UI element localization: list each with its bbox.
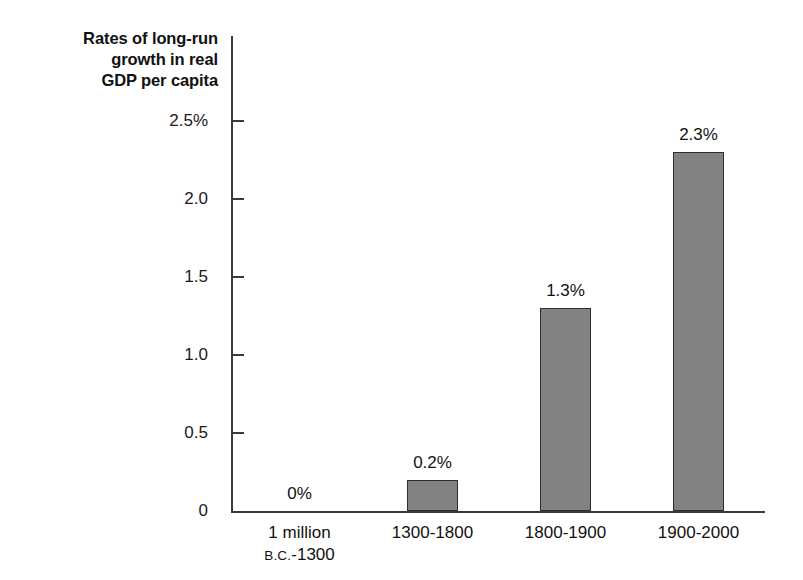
bar-chart-figure: Rates of long-run growth in real GDP per… [0, 0, 803, 580]
bar-value-label: 0% [240, 485, 360, 502]
bar [673, 152, 724, 511]
bar-value-label: 2.3% [639, 126, 759, 143]
x-axis-line [231, 511, 765, 513]
bar-value-label: 0.2% [373, 454, 493, 471]
chart-title: Rates of long-run growth in real GDP per… [20, 28, 218, 91]
y-axis-line [231, 36, 233, 513]
chart-title-line-2: growth in real [20, 49, 218, 70]
y-axis-tick [233, 120, 244, 122]
bar-value-label: 1.3% [506, 282, 626, 299]
y-axis-tick [233, 276, 244, 278]
y-axis-tick [233, 198, 244, 200]
chart-title-line-3: GDP per capita [20, 70, 218, 91]
y-axis-tick [233, 354, 244, 356]
y-axis-tick [233, 432, 244, 434]
x-axis-category-label: 1 millionB.C.-1300 [225, 522, 375, 567]
x-axis-category-label: 1800-1900 [491, 522, 641, 544]
chart-title-line-1: Rates of long-run [20, 28, 218, 49]
bar [407, 480, 458, 511]
x-axis-category-label: 1300-1800 [358, 522, 508, 544]
x-axis-category-label: 1900-2000 [624, 522, 774, 544]
bar [540, 308, 591, 511]
